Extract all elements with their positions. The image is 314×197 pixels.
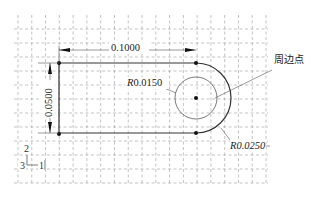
axis-triad: 2 3 1 [18, 142, 46, 171]
outer-arc[interactable] [196, 63, 231, 133]
dim-arrow-left-icon [59, 48, 70, 52]
svg-text:R0.0150: R0.0150 [126, 77, 162, 88]
inner-radius-dimension[interactable]: R0.0150 [125, 77, 176, 93]
axis-label-1: 1 [39, 160, 44, 171]
vertex-top-right[interactable] [194, 61, 198, 65]
sketch-canvas: 0.1000 0.0500 R0.0150 R0.0250 周边点 [0, 0, 314, 197]
sketch-geometry [57, 61, 231, 136]
svg-text:R0.0250: R0.0250 [229, 140, 266, 151]
vertical-dimension-label: 0.0500 [43, 88, 54, 117]
dim-arrow-up-icon [48, 63, 52, 74]
vertical-dimension[interactable]: 0.0500 [38, 63, 59, 133]
horizontal-dimension-label: 0.1000 [111, 42, 140, 53]
perimeter-point-label: 周边点 [274, 54, 304, 65]
vertex-bottom-left[interactable] [57, 132, 61, 136]
axis-label-3: 3 [20, 160, 25, 171]
outer-radius-value: 0.0250 [236, 140, 266, 151]
axis-label-2: 2 [24, 143, 29, 154]
outer-radius-dimension[interactable]: R0.0250 [221, 128, 270, 151]
dim-arrow-right-icon [185, 48, 196, 52]
arc-center-point[interactable] [194, 96, 198, 100]
horizontal-dimension[interactable]: 0.1000 [59, 41, 196, 63]
dim-arrow-down-icon [48, 122, 52, 133]
inner-radius-value: 0.0150 [133, 77, 162, 88]
perimeter-point-annotation[interactable]: 周边点 [215, 53, 311, 98]
vertex-bottom-right[interactable] [194, 131, 198, 135]
